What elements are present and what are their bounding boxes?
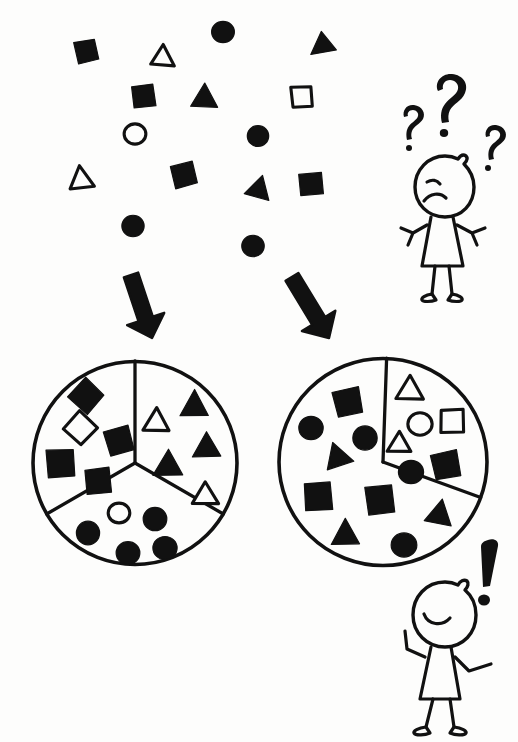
pleased-person	[405, 539, 498, 735]
question-mark-right	[485, 125, 506, 171]
question-mark-left	[404, 105, 424, 151]
confused-person	[401, 74, 506, 302]
question-mark-large	[437, 74, 466, 137]
illustration-canvas	[0, 0, 518, 742]
exclamation-mark	[478, 539, 498, 605]
figures-layer	[0, 0, 518, 742]
